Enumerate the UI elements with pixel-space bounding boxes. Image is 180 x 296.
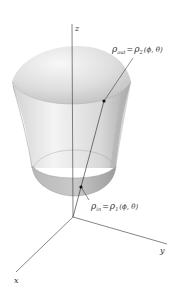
inner-surface-label: ρin=ρ1(ϕ, θ)	[90, 201, 138, 212]
x-axis	[16, 217, 73, 272]
solid-region	[12, 46, 131, 196]
y-axis	[73, 217, 167, 244]
svg-text:ρin=ρ1(ϕ, θ): ρin=ρ1(ϕ, θ)	[90, 201, 138, 212]
z-axis-label: z	[74, 24, 80, 33]
spherical-region-diagram: z x y ρout=ρ2(ϕ, θ) ρin=ρ1(ϕ, θ)	[0, 0, 180, 296]
x-axis-label: x	[14, 276, 19, 285]
outer-surface-label: ρout=ρ2(ϕ, θ)	[111, 44, 163, 55]
svg-text:ρout=ρ2(ϕ, θ): ρout=ρ2(ϕ, θ)	[111, 44, 163, 55]
y-axis-label: y	[159, 246, 165, 255]
inner-bowl-surface	[32, 166, 116, 196]
outer-boundary-point	[102, 99, 105, 102]
outer-dome-surface	[12, 46, 131, 104]
inner-boundary-point	[79, 185, 82, 188]
